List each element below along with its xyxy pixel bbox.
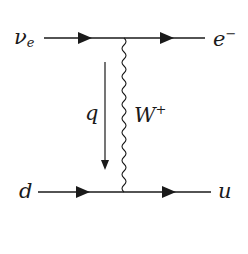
electron-charge: − — [225, 26, 236, 41]
bottom-fermion-line — [38, 186, 211, 198]
momentum-arrow — [101, 62, 109, 170]
arrow-icon — [160, 32, 174, 44]
label-up-quark: u — [218, 181, 232, 202]
arrow-icon — [78, 32, 92, 44]
label-w-boson: W+ — [134, 103, 167, 126]
electron-symbol: e — [213, 27, 225, 51]
up-quark-symbol: u — [218, 179, 232, 203]
arrow-icon — [76, 186, 90, 198]
label-neutrino: νe — [14, 27, 34, 49]
arrow-icon — [162, 186, 176, 198]
arrow-down-icon — [101, 160, 109, 170]
neutrino-subscript: e — [27, 35, 35, 50]
feynman-diagram — [0, 0, 248, 254]
label-down-quark: d — [19, 181, 32, 202]
down-quark-symbol: d — [19, 179, 32, 203]
label-momentum: q — [85, 103, 98, 124]
w-boson-propagator — [122, 38, 126, 192]
momentum-symbol: q — [85, 101, 98, 125]
boson-symbol: W — [134, 103, 156, 127]
label-electron: e− — [213, 27, 236, 50]
boson-charge: + — [156, 102, 167, 117]
neutrino-symbol: ν — [14, 25, 27, 49]
